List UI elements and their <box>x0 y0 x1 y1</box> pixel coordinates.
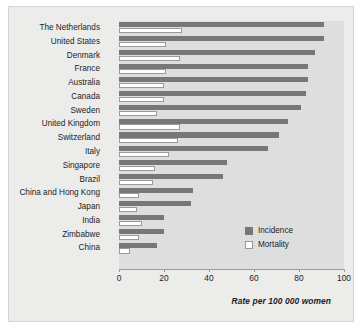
bar-row: Canada <box>9 90 355 104</box>
bar-group <box>119 131 344 145</box>
mortality-bar <box>119 207 137 212</box>
legend-label-incidence: Incidence <box>258 225 293 237</box>
tick-mark <box>164 269 165 272</box>
chart-frame: The NetherlandsUnited StatesDenmarkFranc… <box>8 6 354 322</box>
incidence-bar <box>119 146 268 151</box>
category-label: Switzerland <box>0 131 100 145</box>
mortality-bar <box>119 166 155 171</box>
x-axis-line <box>119 269 344 270</box>
category-label: Zimbabwe <box>0 228 100 242</box>
mortality-bar <box>119 56 180 61</box>
category-label: United Kingdom <box>0 117 100 131</box>
tick-mark <box>209 269 210 272</box>
incidence-bar <box>119 160 227 165</box>
category-label: Italy <box>0 145 100 159</box>
category-label: Sweden <box>0 104 100 118</box>
bar-group <box>119 90 344 104</box>
category-label: Singapore <box>0 159 100 173</box>
incidence-bar <box>119 64 308 69</box>
category-label: The Netherlands <box>0 21 100 35</box>
category-label: China and Hong Kong <box>0 186 100 200</box>
category-label: Denmark <box>0 49 100 63</box>
tick-mark <box>344 269 345 272</box>
bar-row: Italy <box>9 145 355 159</box>
legend-label-mortality: Mortality <box>258 239 289 251</box>
incidence-bar <box>119 22 324 27</box>
category-label: India <box>0 214 100 228</box>
category-label: France <box>0 62 100 76</box>
bar-group <box>119 104 344 118</box>
incidence-bar <box>119 201 191 206</box>
bar-group <box>119 173 344 187</box>
bar-group <box>119 35 344 49</box>
tick-mark <box>299 269 300 272</box>
mortality-bar <box>119 235 139 240</box>
bar-row: Japan <box>9 200 355 214</box>
incidence-bar <box>119 77 308 82</box>
chart-legend: Incidence Mortality <box>245 225 340 253</box>
chart-figure: The NetherlandsUnited StatesDenmarkFranc… <box>0 0 362 329</box>
category-label: Canada <box>0 90 100 104</box>
bar-group <box>119 49 344 63</box>
mortality-swatch-icon <box>245 241 253 249</box>
tick-label: 20 <box>149 273 179 283</box>
bar-group <box>119 159 344 173</box>
incidence-bar <box>119 132 279 137</box>
incidence-bar <box>119 36 324 41</box>
incidence-bar <box>119 119 288 124</box>
bar-group <box>119 186 344 200</box>
mortality-bar <box>119 28 182 33</box>
bar-row: United Kingdom <box>9 117 355 131</box>
tick-label: 100 <box>329 273 359 283</box>
mortality-bar <box>119 97 164 102</box>
legend-item-incidence: Incidence <box>245 225 340 239</box>
mortality-bar <box>119 124 180 129</box>
bar-row: Sweden <box>9 104 355 118</box>
bar-row: Brazil <box>9 173 355 187</box>
tick-label: 60 <box>239 273 269 283</box>
incidence-bar <box>119 91 306 96</box>
legend-item-mortality: Mortality <box>245 239 340 253</box>
incidence-bar <box>119 174 223 179</box>
bar-row: Switzerland <box>9 131 355 145</box>
category-label: Japan <box>0 200 100 214</box>
bar-row: China and Hong Kong <box>9 186 355 200</box>
incidence-swatch-icon <box>245 227 253 235</box>
mortality-bar <box>119 83 164 88</box>
tick-mark <box>254 269 255 272</box>
mortality-bar <box>119 42 166 47</box>
bar-row: Denmark <box>9 49 355 63</box>
mortality-bar <box>119 248 130 253</box>
category-label: China <box>0 241 100 255</box>
bar-group <box>119 200 344 214</box>
category-label: Australia <box>0 76 100 90</box>
bar-row: Singapore <box>9 159 355 173</box>
bar-group <box>119 76 344 90</box>
mortality-bar <box>119 193 139 198</box>
incidence-bar <box>119 229 164 234</box>
category-label: United States <box>0 35 100 49</box>
mortality-bar <box>119 221 142 226</box>
bar-row: The Netherlands <box>9 21 355 35</box>
mortality-bar <box>119 69 166 74</box>
bar-group <box>119 117 344 131</box>
category-label: Brazil <box>0 173 100 187</box>
tick-label: 80 <box>284 273 314 283</box>
mortality-bar <box>119 111 157 116</box>
incidence-bar <box>119 105 301 110</box>
mortality-bar <box>119 138 178 143</box>
tick-mark <box>119 269 120 272</box>
tick-label: 40 <box>194 273 224 283</box>
bar-group <box>119 145 344 159</box>
mortality-bar <box>119 180 153 185</box>
incidence-bar <box>119 215 164 220</box>
incidence-bar <box>119 188 193 193</box>
incidence-bar <box>119 243 157 248</box>
mortality-bar <box>119 152 169 157</box>
bar-group <box>119 62 344 76</box>
bar-group <box>119 21 344 35</box>
incidence-bar <box>119 50 315 55</box>
bar-row: United States <box>9 35 355 49</box>
x-axis-title: Rate per 100 000 women <box>232 296 332 306</box>
tick-label: 0 <box>104 273 134 283</box>
